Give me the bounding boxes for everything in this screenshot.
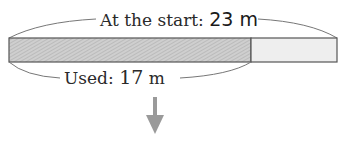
used-brace-left [9,62,60,78]
down-arrow-icon [146,97,164,134]
total-label: At the start: 23 m [99,8,258,30]
used-brace-right [180,62,251,78]
used-label: Used: 17 m [64,66,165,88]
total-brace-right [258,19,337,38]
total-brace-left [9,19,96,38]
used-segment [9,38,251,62]
tape-diagram: At the start: 23 m Used: 17 m [0,0,344,143]
remaining-segment [251,38,337,62]
